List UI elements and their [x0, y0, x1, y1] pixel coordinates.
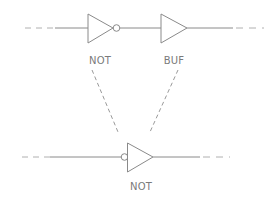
bottom-not-label: NOT: [130, 181, 152, 192]
top-circuit: [25, 14, 264, 43]
equivalence-connectors: [92, 70, 178, 132]
top-buf-gate-icon: [161, 14, 187, 43]
bottom-not-bubble-icon: [121, 154, 128, 161]
connector-not-to-bottom: [92, 70, 118, 132]
top-not-gate-icon: [88, 14, 113, 43]
connector-buf-to-bottom: [150, 70, 178, 132]
diagram-canvas: NOT BUF NOT: [0, 0, 275, 201]
top-not-label: NOT: [89, 55, 111, 66]
top-buf-label: BUF: [164, 55, 185, 66]
bottom-circuit: [22, 143, 230, 172]
bottom-not-gate-icon: [128, 143, 154, 172]
top-not-bubble-icon: [113, 25, 120, 32]
logic-diagram: [0, 0, 275, 201]
